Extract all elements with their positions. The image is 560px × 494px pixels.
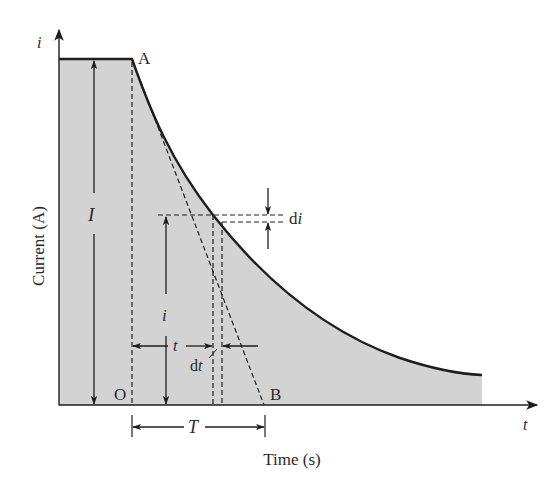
label-t: t bbox=[173, 337, 178, 354]
y-axis-title: Current (A) bbox=[29, 206, 48, 286]
label-i: i bbox=[162, 306, 167, 325]
point-label-O: O bbox=[114, 385, 126, 404]
label-dt: dt bbox=[190, 357, 203, 374]
label-di: di bbox=[289, 209, 303, 228]
area-under-curve bbox=[59, 59, 482, 405]
current-decay-diagram: I i t dt di T A O B i t Current (A) Time… bbox=[0, 0, 560, 494]
point-label-B: B bbox=[270, 385, 281, 404]
label-T: T bbox=[188, 417, 200, 437]
point-label-A: A bbox=[138, 49, 151, 68]
x-axis-symbol: t bbox=[523, 416, 528, 433]
y-axis-symbol: i bbox=[37, 34, 41, 51]
x-axis-title: Time (s) bbox=[263, 450, 320, 469]
